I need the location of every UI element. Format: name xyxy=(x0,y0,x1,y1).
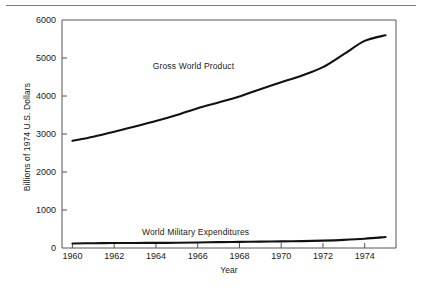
series-label: World Military Expenditures xyxy=(142,227,249,237)
plot-frame xyxy=(62,20,396,248)
chart-figure: Billions of 1974 U.S. Dollars Year 01000… xyxy=(0,0,425,291)
axis-ticks xyxy=(62,58,365,248)
plot-area xyxy=(0,0,425,291)
series-label: Gross World Product xyxy=(153,61,235,71)
